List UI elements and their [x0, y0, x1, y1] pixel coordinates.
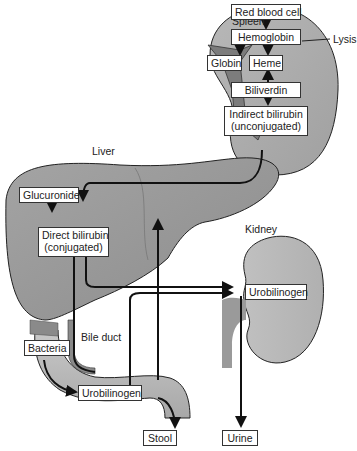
indirect-bilirubin-line1: Indirect bilirubin: [228, 108, 304, 120]
indirect-bilirubin-line2: (unconjugated): [228, 120, 304, 132]
direct-bilirubin-line1: Direct bilirubin: [42, 229, 105, 241]
lysis-label: Lysis: [333, 33, 357, 45]
urobilinogen-kidney-box: Urobilinogen: [245, 284, 307, 300]
heme-box: Heme: [249, 55, 283, 71]
red-blood-cell-box: Red blood cell: [231, 4, 301, 20]
globin-box: Globin: [207, 55, 242, 71]
bacteria-box: Bacteria: [24, 340, 70, 356]
urine-box: Urine: [222, 430, 258, 446]
indirect-bilirubin-box: Indirect bilirubin (unconjugated): [224, 106, 308, 136]
bile-duct-label: Bile duct: [81, 331, 121, 343]
urobilinogen-intestine-box: Urobilinogen: [78, 385, 142, 401]
direct-bilirubin-line2: (conjugated): [42, 241, 105, 253]
direct-bilirubin-box: Direct bilirubin (conjugated): [38, 227, 109, 257]
kidney-label: Kidney: [245, 223, 277, 235]
glucuronide-box: Glucuronide: [19, 187, 79, 203]
liver-label: Liver: [92, 145, 115, 157]
kidney-shape: [222, 236, 323, 368]
hemoglobin-box: Hemoglobin: [231, 29, 301, 45]
biliverdin-box: Biliverdin: [231, 82, 301, 98]
stool-box: Stool: [143, 430, 177, 446]
